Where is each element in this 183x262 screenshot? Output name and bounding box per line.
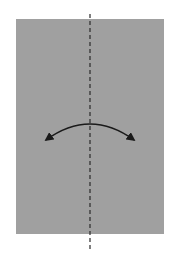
fold-diagram <box>0 0 183 262</box>
